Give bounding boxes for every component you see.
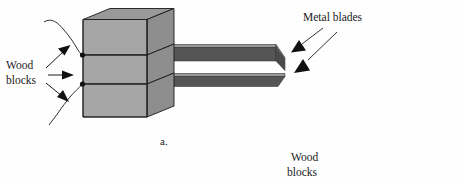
- label-wood-blocks-left-line1: Wood: [6, 59, 33, 71]
- mechanism-diagram: Wood blocks Metal blades Wood blocks a.: [0, 0, 459, 181]
- figure-caption: a.: [160, 135, 168, 147]
- metal-blade-lower-body: [163, 77, 285, 87]
- figure-container: Wood blocks Metal blades Wood blocks a.: [0, 0, 459, 181]
- leader-dot-upper: [80, 52, 85, 57]
- label-wood-blocks-bottom-right-line2: blocks: [287, 166, 318, 178]
- metal-blade-upper-top-edge: [163, 45, 276, 48]
- metal-blade-upper-body: [163, 48, 276, 62]
- metal-blade-lower: [163, 74, 285, 87]
- label-metal-blades: Metal blades: [303, 11, 363, 23]
- label-wood-blocks-bottom-right-line1: Wood: [291, 151, 318, 163]
- leader-dot-lower: [80, 81, 85, 86]
- wood-block-stack: [83, 9, 174, 118]
- wood-block-top-frontface: [83, 20, 147, 56]
- metal-blade-lower-top-edge: [163, 74, 285, 77]
- label-metal-blades-line1: Metal blades: [303, 11, 363, 23]
- diagram-background: [0, 0, 459, 181]
- label-wood-blocks-left-line2: blocks: [6, 74, 37, 86]
- wood-block-top: [83, 9, 174, 56]
- wood-block-middle-frontface: [83, 55, 147, 84]
- wood-block-bottom-frontface: [83, 84, 147, 117]
